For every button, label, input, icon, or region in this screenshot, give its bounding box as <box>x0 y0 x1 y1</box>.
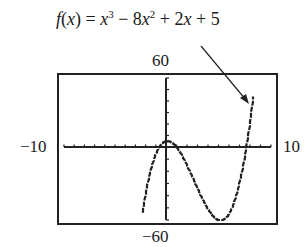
function-curve <box>143 97 253 220</box>
graph-window <box>0 0 308 247</box>
arrowhead-icon <box>240 94 249 104</box>
